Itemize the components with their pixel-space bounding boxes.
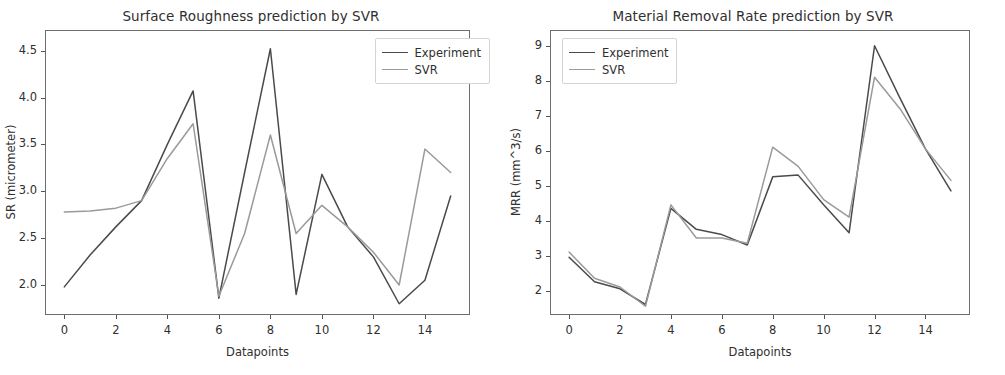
figure-two-panel-line-charts: Surface Roughness prediction by SVR SR (… <box>0 0 1005 375</box>
legend-item-experiment: Experiment <box>382 44 481 61</box>
legend-item-svr: SVR <box>569 61 668 78</box>
x-axis-label-right: Datapoints <box>550 345 970 359</box>
legend-label-experiment: Experiment <box>602 46 668 60</box>
series-line-experiment <box>569 46 951 305</box>
legend-item-svr: SVR <box>382 61 481 78</box>
legend-left: Experiment SVR <box>375 38 490 84</box>
legend-swatch-experiment <box>569 52 595 53</box>
legend-label-svr: SVR <box>602 63 625 77</box>
panel-surface-roughness: Surface Roughness prediction by SVR SR (… <box>0 0 502 375</box>
series-line-experiment <box>64 49 450 304</box>
x-axis-label-left: Datapoints <box>45 345 470 359</box>
series-line-svr <box>64 124 450 297</box>
legend-swatch-svr <box>382 69 408 70</box>
legend-right: Experiment SVR <box>562 38 677 84</box>
legend-item-experiment: Experiment <box>569 44 668 61</box>
legend-label-svr: SVR <box>415 63 438 77</box>
legend-swatch-experiment <box>382 52 408 53</box>
legend-label-experiment: Experiment <box>415 46 481 60</box>
series-line-svr <box>569 77 951 306</box>
panel-material-removal-rate: Material Removal Rate prediction by SVR … <box>502 0 1004 375</box>
legend-swatch-svr <box>569 69 595 70</box>
